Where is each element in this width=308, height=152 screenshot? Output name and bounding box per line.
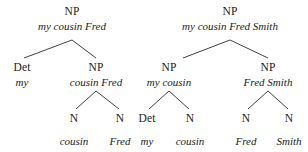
tree-edge	[149, 91, 169, 109]
tree-node-label: N	[285, 113, 294, 125]
tree-node-label: N	[70, 113, 79, 125]
tree-node-label: Det	[13, 62, 30, 74]
tree-node-label: N	[242, 113, 251, 125]
tree-node-phrase: cousin	[60, 136, 89, 147]
tree-node-phrase: cousin	[176, 136, 205, 147]
tree-node-phrase: my cousin Fred Smith	[182, 21, 278, 32]
syntax-tree-figure: NPmy cousin FredDetmyNPcousin FredNcousi…	[0, 0, 308, 152]
tree-edge	[268, 91, 288, 109]
tree-node-phrase: Fred	[110, 136, 131, 147]
tree-edge	[183, 40, 230, 58]
tree-edge	[24, 40, 72, 58]
tree-node-phrase: my	[141, 136, 154, 147]
tree-node-phrase: Smith	[276, 136, 301, 147]
tree-node-phrase: my cousin Fred	[38, 21, 106, 32]
tree-node-label: NP	[260, 62, 275, 74]
tree-edge	[230, 40, 268, 58]
tree-node-label: NP	[88, 62, 103, 74]
tree-node-label: NP	[222, 6, 237, 18]
tree-node-label: NP	[64, 6, 79, 18]
tree-edge	[76, 91, 96, 109]
tree-edge	[72, 40, 96, 58]
tree-node-phrase: my cousin	[147, 77, 191, 88]
tree-edge	[248, 91, 268, 109]
tree-edge	[169, 91, 189, 109]
tree-edge	[96, 91, 119, 109]
tree-node-phrase: cousin Fred	[70, 77, 122, 88]
tree-node-label: Det	[138, 113, 155, 125]
tree-node-label: N	[116, 113, 125, 125]
tree-node-phrase: my	[16, 77, 29, 88]
tree-node-label: NP	[161, 62, 176, 74]
tree-node-phrase: Fred	[236, 136, 257, 147]
tree-node-label: N	[186, 113, 195, 125]
tree-node-phrase: Fred Smith	[244, 77, 293, 88]
